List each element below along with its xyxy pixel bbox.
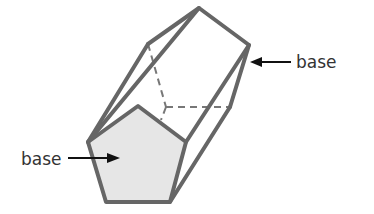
pentagonal-prism-diagram: base base: [0, 0, 374, 214]
top-base-label: base: [296, 52, 337, 72]
prism-figure: base base: [0, 0, 374, 214]
bottom-base-label: base: [21, 149, 62, 169]
top-base-arrow: [250, 57, 291, 67]
